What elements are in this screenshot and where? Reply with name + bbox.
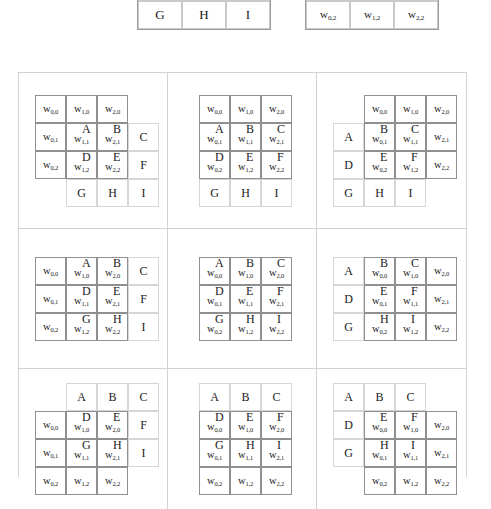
kernel-cell[interactable]: w1,2 bbox=[230, 467, 261, 495]
kernel-cell[interactable]: w1,2G bbox=[66, 313, 97, 341]
kernel-cell[interactable]: w1,1B bbox=[230, 123, 261, 151]
kernel-cell[interactable]: w1,0C bbox=[395, 257, 426, 285]
panel-shift-left-down[interactable]: ABCFIw0,0w1,0Dw2,0Ew0,1w1,1Gw2,1Hw0,2w1,… bbox=[19, 369, 168, 509]
overlap-image-letter: E bbox=[113, 150, 120, 165]
kernel-cell[interactable]: w1,0 bbox=[66, 95, 97, 123]
kernel-grid[interactable]: w0,0Dw1,0Ew2,0Fw0,1Gw1,1Hw2,1Iw0,2w1,2w2… bbox=[199, 411, 292, 495]
kernel-cell[interactable]: w2,1 bbox=[426, 285, 457, 313]
kernel-cell[interactable]: w1,0B bbox=[230, 257, 261, 285]
kernel-cell[interactable]: w1,1F bbox=[395, 285, 426, 313]
kernel-cell[interactable]: w1,1C bbox=[395, 123, 426, 151]
kernel-cell[interactable]: w1,0E bbox=[230, 411, 261, 439]
kernel-cell[interactable]: w1,1E bbox=[230, 285, 261, 313]
kernel-cell[interactable]: w0,1 bbox=[35, 439, 66, 467]
kernel-grid[interactable]: w0,0w1,0w2,0w0,1Bw1,1Cw2,1w0,2Ew1,2Fw2,2 bbox=[364, 95, 457, 179]
panel-center-full-overlap[interactable]: w0,0Aw1,0Bw2,0Cw0,1Dw1,1Ew2,1Fw0,2Gw1,2H… bbox=[168, 229, 317, 369]
kernel-grid[interactable]: w0,0w1,0w2,0w0,1Aw1,1Bw2,1Cw0,2Dw1,2Ew2,… bbox=[199, 95, 292, 179]
kernel-cell[interactable]: w0,0A bbox=[199, 257, 230, 285]
kernel-cell[interactable]: w0,1B bbox=[364, 123, 395, 151]
kernel-cell[interactable]: w1,0 bbox=[230, 95, 261, 123]
kernel-cell[interactable]: w0,1 bbox=[35, 123, 66, 151]
kernel-cell[interactable]: w2,2I bbox=[261, 313, 292, 341]
kernel-cell[interactable]: w2,0 bbox=[426, 257, 457, 285]
kernel-cell[interactable]: w2,0 bbox=[97, 95, 128, 123]
kernel-cell[interactable]: w0,0E bbox=[364, 411, 395, 439]
kernel-grid[interactable]: w0,0w1,0Dw2,0Ew0,1w1,1Gw2,1Hw0,2w1,2w2,2 bbox=[35, 411, 128, 495]
kernel-cell[interactable]: w1,1A bbox=[66, 123, 97, 151]
kernel-cell[interactable]: w2,2 bbox=[97, 467, 128, 495]
kernel-cell[interactable]: w0,1H bbox=[364, 439, 395, 467]
kernel-cell[interactable]: w0,2G bbox=[199, 313, 230, 341]
kernel-cell[interactable]: w2,2F bbox=[261, 151, 292, 179]
kernel-cell[interactable]: w2,1I bbox=[261, 439, 292, 467]
kernel-cell[interactable]: w2,0 bbox=[426, 411, 457, 439]
kernel-grid[interactable]: w0,0w1,0w2,0w0,1w1,1Aw2,1Bw0,2w1,2Dw2,2E bbox=[35, 95, 128, 179]
kernel-cell[interactable]: w2,2 bbox=[426, 151, 457, 179]
kernel-cell[interactable]: w0,1G bbox=[199, 439, 230, 467]
kernel-cell[interactable]: w0,0B bbox=[364, 257, 395, 285]
panel-shift-center-up[interactable]: GHIw0,0w1,0w2,0w0,1Aw1,1Bw2,1Cw0,2Dw1,2E… bbox=[168, 73, 317, 229]
kernel-cell[interactable]: w2,2 bbox=[426, 313, 457, 341]
kernel-cell[interactable]: w2,0B bbox=[97, 257, 128, 285]
kernel-cell[interactable]: w1,1D bbox=[66, 285, 97, 313]
kernel-cell[interactable]: w2,0F bbox=[261, 411, 292, 439]
kernel-cell[interactable]: w2,1F bbox=[261, 285, 292, 313]
kernel-grid[interactable]: w0,0w1,0Aw2,0Bw0,1w1,1Dw2,1Ew0,2w1,2Gw2,… bbox=[35, 257, 128, 341]
kernel-cell[interactable]: w0,2D bbox=[199, 151, 230, 179]
kernel-grid[interactable]: w0,0Ew1,0Fw2,0w0,1Hw1,1Iw2,1w0,2w1,2w2,2 bbox=[364, 411, 457, 495]
kernel-cell[interactable]: w1,2 bbox=[66, 467, 97, 495]
kernel-cell[interactable]: w0,1A bbox=[199, 123, 230, 151]
kernel-cell[interactable]: w0,2E bbox=[364, 151, 395, 179]
kernel-cell[interactable]: w2,0E bbox=[97, 411, 128, 439]
kernel-cell[interactable]: w1,2F bbox=[395, 151, 426, 179]
kernel-cell[interactable]: w1,2D bbox=[66, 151, 97, 179]
kernel-cell[interactable]: w0,2 bbox=[364, 467, 395, 495]
kernel-cell[interactable]: w0,0 bbox=[35, 257, 66, 285]
kernel-cell[interactable]: w2,2 bbox=[261, 467, 292, 495]
kernel-cell[interactable]: w1,2H bbox=[230, 313, 261, 341]
panel-shift-right-down[interactable]: ABCDGw0,0Ew1,0Fw2,0w0,1Hw1,1Iw2,1w0,2w1,… bbox=[317, 369, 466, 509]
kernel-cell[interactable]: w0,2 bbox=[199, 467, 230, 495]
kernel-cell[interactable]: w1,0F bbox=[395, 411, 426, 439]
panel-shift-right-up[interactable]: ADGHIw0,0w1,0w2,0w0,1Bw1,1Cw2,1w0,2Ew1,2… bbox=[317, 73, 466, 229]
kernel-cell[interactable]: w0,1 bbox=[35, 285, 66, 313]
panel-shift-right-center[interactable]: ADGw0,0Bw1,0Cw2,0w0,1Ew1,1Fw2,1w0,2Hw1,2… bbox=[317, 229, 466, 369]
kernel-cell[interactable]: w2,0 bbox=[426, 95, 457, 123]
kernel-cell[interactable]: w0,0 bbox=[35, 411, 66, 439]
kernel-cell[interactable]: w1,1I bbox=[395, 439, 426, 467]
kernel-cell[interactable]: w0,2 bbox=[35, 467, 66, 495]
kernel-cell[interactable]: w0,2 bbox=[35, 313, 66, 341]
kernel-cell[interactable]: w0,1D bbox=[199, 285, 230, 313]
kernel-cell[interactable]: w1,2E bbox=[230, 151, 261, 179]
kernel-cell[interactable]: w1,0A bbox=[66, 257, 97, 285]
kernel-cell[interactable]: w1,2 bbox=[395, 467, 426, 495]
kernel-cell[interactable]: w2,1H bbox=[97, 439, 128, 467]
kernel-cell[interactable]: w0,0D bbox=[199, 411, 230, 439]
kernel-cell[interactable]: w0,0 bbox=[364, 95, 395, 123]
kernel-cell[interactable]: w2,1B bbox=[97, 123, 128, 151]
kernel-cell[interactable]: w0,2 bbox=[35, 151, 66, 179]
kernel-grid[interactable]: w0,0Bw1,0Cw2,0w0,1Ew1,1Fw2,1w0,2Hw1,2Iw2… bbox=[364, 257, 457, 341]
kernel-cell[interactable]: w1,1H bbox=[230, 439, 261, 467]
kernel-cell[interactable]: w2,1C bbox=[261, 123, 292, 151]
kernel-cell[interactable]: w0,1E bbox=[364, 285, 395, 313]
kernel-cell[interactable]: w2,0 bbox=[261, 95, 292, 123]
kernel-cell[interactable]: w2,2H bbox=[97, 313, 128, 341]
kernel-cell[interactable]: w1,2I bbox=[395, 313, 426, 341]
kernel-cell[interactable]: w2,2E bbox=[97, 151, 128, 179]
kernel-cell[interactable]: w2,0C bbox=[261, 257, 292, 285]
kernel-cell[interactable]: w1,1G bbox=[66, 439, 97, 467]
kernel-cell[interactable]: w0,0 bbox=[199, 95, 230, 123]
panel-shift-left-up[interactable]: CFGHIw0,0w1,0w2,0w0,1w1,1Aw2,1Bw0,2w1,2D… bbox=[19, 73, 168, 229]
kernel-cell[interactable]: w2,1 bbox=[426, 123, 457, 151]
panel-shift-center-down[interactable]: ABCw0,0Dw1,0Ew2,0Fw0,1Gw1,1Hw2,1Iw0,2w1,… bbox=[168, 369, 317, 509]
kernel-cell[interactable]: w1,0 bbox=[395, 95, 426, 123]
kernel-cell[interactable]: w2,1E bbox=[97, 285, 128, 313]
kernel-cell[interactable]: w2,2 bbox=[426, 467, 457, 495]
kernel-cell[interactable]: w2,1 bbox=[426, 439, 457, 467]
kernel-cell[interactable]: w1,0D bbox=[66, 411, 97, 439]
kernel-cell[interactable]: w0,2H bbox=[364, 313, 395, 341]
kernel-grid[interactable]: w0,0Aw1,0Bw2,0Cw0,1Dw1,1Ew2,1Fw0,2Gw1,2H… bbox=[199, 257, 292, 341]
kernel-cell[interactable]: w0,0 bbox=[35, 95, 66, 123]
panel-shift-left-center[interactable]: CFIw0,0w1,0Aw2,0Bw0,1w1,1Dw2,1Ew0,2w1,2G… bbox=[19, 229, 168, 369]
